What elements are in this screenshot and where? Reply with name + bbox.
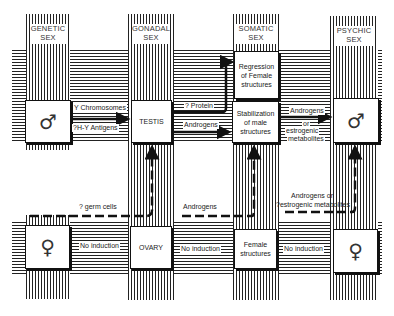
regression-female-structures-box: Regression of Female structures — [234, 51, 279, 99]
regression-line: structures — [241, 80, 272, 89]
stabilization-line: structures — [240, 127, 271, 136]
female-symbol-icon: ♀ — [40, 237, 55, 257]
label-no-induction-2: No induction — [180, 245, 221, 253]
male-symbol-icon: ♂ — [39, 112, 57, 132]
ovary-label: OVARY — [139, 243, 163, 252]
psychic-female-box: ♀ — [333, 229, 378, 273]
stabilization-male-structures-box: Stabilization of male structures — [232, 101, 279, 143]
label-germ-cells: ? germ cells — [79, 203, 117, 211]
female-symbol-icon: ♀ — [348, 241, 363, 261]
testis-box: TESTIS — [131, 100, 172, 143]
label-psychic-estrogenic: estrogenic — [285, 127, 319, 135]
female-structures-line: structures — [240, 249, 271, 258]
label-no-induction-3: No induction — [283, 245, 324, 253]
label-y-chromosomes: Y Chromosomes — [73, 104, 127, 112]
label-no-induction-1: No induction — [79, 242, 120, 250]
testis-label: TESTIS — [139, 117, 164, 126]
label-dashed-psychic-1: Androgens or — [291, 192, 333, 200]
regression-line: Regression — [239, 62, 274, 71]
label-androgens: Androgens — [183, 121, 219, 129]
label-hy-antigens: ?H-Y Antigens — [72, 124, 119, 132]
female-structures-line: Female — [244, 240, 267, 249]
stabilization-line: Stabilization — [237, 109, 275, 118]
label-protein: ? Protein — [184, 102, 214, 110]
regression-line: of Female — [241, 71, 272, 80]
female-structures-box: Female structures — [234, 229, 277, 269]
label-dashed-psychic-2: ?estrogenic metabolites — [276, 201, 350, 209]
label-psychic-metabolites: metabolites — [287, 135, 325, 143]
psychic-male-box: ♂ — [333, 98, 379, 143]
genetic-male-box: ♂ — [25, 100, 71, 143]
label-psychic-androgens: Androgens — [289, 107, 325, 115]
ovary-box: OVARY — [130, 226, 172, 269]
genetic-female-box: ♀ — [25, 225, 70, 269]
stabilization-line: of male — [244, 118, 267, 127]
male-symbol-icon: ♂ — [347, 111, 365, 131]
label-dashed-androgens: Androgens — [183, 203, 217, 211]
